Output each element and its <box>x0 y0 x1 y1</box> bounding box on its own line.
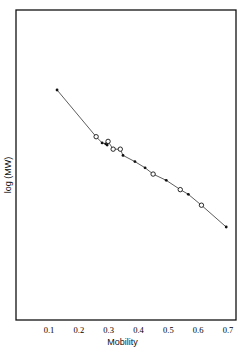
y-axis-label: log (MW) <box>3 145 13 205</box>
x-tick-label: 0.7 <box>223 325 234 335</box>
x-axis-label: Mobility <box>0 337 245 347</box>
x-tick-label: 0.3 <box>103 325 114 335</box>
filled-dot-marker <box>134 160 137 163</box>
x-tick-label: 0.2 <box>74 325 85 335</box>
open-circle-marker <box>199 203 203 207</box>
x-tick-label: 0.5 <box>163 325 174 335</box>
open-circle-marker <box>118 147 122 151</box>
filled-dot-marker <box>122 154 125 157</box>
open-circle-marker <box>178 187 182 191</box>
filled-dot-marker <box>144 166 147 169</box>
filled-dot-marker <box>187 193 190 196</box>
plot-frame <box>16 10 236 320</box>
filled-dot-marker <box>106 144 109 147</box>
chart-area: 0.10.20.30.40.50.60.7 log (MW) Mobility <box>0 0 245 351</box>
x-tick-label: 0.4 <box>133 325 144 335</box>
filled-dot-marker <box>165 179 168 182</box>
filled-dot-marker <box>101 142 104 145</box>
data-markers <box>56 89 228 229</box>
plot-svg: 0.10.20.30.40.50.60.7 <box>0 0 245 351</box>
filled-dot-marker <box>56 89 59 92</box>
open-circle-marker <box>94 135 98 139</box>
x-tick-label: 0.6 <box>193 325 204 335</box>
open-circle-marker <box>106 139 110 143</box>
open-circle-marker <box>151 172 155 176</box>
x-tick-labels: 0.10.20.30.40.50.60.7 <box>44 325 234 335</box>
filled-dot-marker <box>225 226 228 229</box>
x-tick-label: 0.1 <box>44 325 55 335</box>
open-circle-marker <box>111 147 115 151</box>
